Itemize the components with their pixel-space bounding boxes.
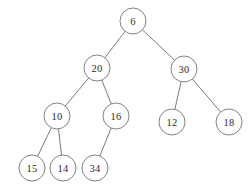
tree-node[interactable]: 18	[216, 109, 242, 135]
tree-edge	[58, 129, 61, 155]
tree-node[interactable]: 10	[44, 103, 70, 129]
node-layer: 6203010161218151434	[19, 8, 242, 181]
edge-layer	[38, 30, 221, 156]
binary-tree-graphic: 6203010161218151434	[0, 0, 252, 196]
tree-node-label: 12	[167, 117, 178, 128]
tree-node-label: 18	[224, 117, 235, 128]
tree-edge	[105, 31, 125, 57]
tree-node[interactable]: 14	[50, 155, 76, 181]
tree-edge	[192, 79, 220, 112]
tree-edge	[100, 128, 111, 156]
tree-node[interactable]: 16	[103, 103, 129, 129]
tree-edge	[102, 80, 111, 104]
tree-node-label: 14	[58, 163, 69, 174]
tree-node[interactable]: 30	[171, 56, 197, 82]
tree-node-label: 6	[130, 16, 135, 27]
tree-diagram-canvas: 6203010161218151434	[0, 0, 252, 196]
tree-node-label: 15	[27, 163, 38, 174]
tree-node-label: 30	[179, 64, 190, 75]
tree-node[interactable]: 12	[159, 109, 185, 135]
tree-node-label: 10	[52, 111, 63, 122]
tree-node[interactable]: 34	[82, 155, 108, 181]
tree-node-label: 16	[111, 111, 122, 122]
tree-node[interactable]: 20	[84, 55, 110, 81]
tree-node-label: 20	[92, 63, 103, 74]
tree-node[interactable]: 6	[120, 8, 146, 34]
tree-edge	[65, 78, 88, 106]
tree-edge	[175, 82, 181, 110]
tree-node-label: 34	[90, 163, 101, 174]
tree-edge	[142, 30, 174, 60]
tree-node[interactable]: 15	[19, 155, 45, 181]
tree-edge	[38, 128, 52, 157]
